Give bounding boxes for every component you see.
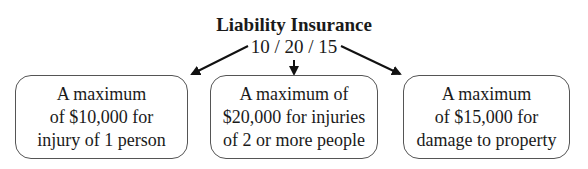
box-line: A maximum xyxy=(417,83,557,106)
box-individual-injury: A maximum of $10,000 for injury of 1 per… xyxy=(15,75,188,159)
arrow-left xyxy=(192,46,248,74)
box-line: A maximum of xyxy=(223,83,365,106)
box-line: of 2 or more people xyxy=(223,129,365,152)
arrow-right xyxy=(341,46,400,74)
box-line: injury of 1 person xyxy=(37,129,165,152)
box-line: damage to property xyxy=(417,129,557,152)
box-property-damage: A maximum of $15,000 for damage to prope… xyxy=(403,75,570,159)
box-group-injury: A maximum of $20,000 for injuries of 2 o… xyxy=(210,75,378,159)
box-line: of $15,000 for xyxy=(417,106,557,129)
liability-insurance-diagram: Liability Insurance 10 / 20 / 15 A maxim… xyxy=(0,0,588,169)
box-line: of $10,000 for xyxy=(37,106,165,129)
box-line: A maximum xyxy=(37,83,165,106)
box-line: $20,000 for injuries xyxy=(223,106,365,129)
